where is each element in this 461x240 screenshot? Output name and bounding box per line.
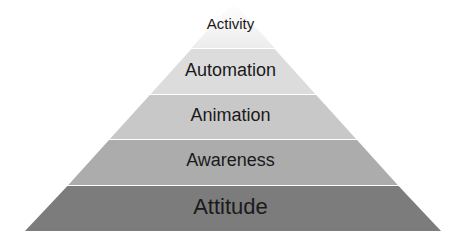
layer-animation-label: Animation [0, 105, 461, 126]
layer-activity-label: Activity [0, 15, 461, 32]
layer-automation-label: Automation [0, 60, 461, 81]
layer-awareness-label: Awareness [0, 150, 461, 171]
layer-attitude-label: Attitude [0, 194, 461, 220]
pyramid-diagram: Activity Automation Animation Awareness … [0, 0, 461, 240]
